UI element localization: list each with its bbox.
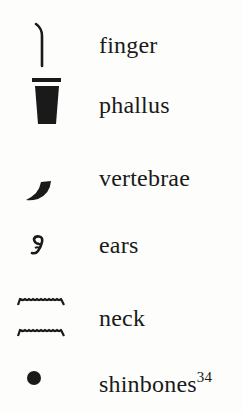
entry-label-phallus: phallus (99, 93, 170, 117)
shinbones-text: shinbones (99, 371, 197, 397)
entry-ears: ears (0, 235, 243, 275)
entry-shinbones: shinbones34 (0, 365, 243, 411)
vertebrae-icon (25, 180, 53, 202)
finger-icon (33, 22, 47, 68)
footnote-marker: 34 (197, 369, 212, 385)
entry-label-vertebrae: vertebrae (99, 166, 190, 190)
entry-label-finger: finger (99, 33, 158, 57)
ears-icon (30, 235, 46, 255)
entry-label-ears: ears (99, 233, 138, 257)
entry-vertebrae: vertebrae (0, 170, 243, 220)
entry-phallus: phallus (0, 70, 243, 130)
phallus-icon (31, 78, 63, 126)
neck-icon (16, 295, 66, 340)
entry-label-neck: neck (99, 306, 145, 330)
entry-neck: neck (0, 295, 243, 345)
entry-finger: finger (0, 0, 243, 70)
entry-label-shinbones: shinbones34 (99, 372, 212, 396)
shinbones-icon (26, 370, 42, 386)
